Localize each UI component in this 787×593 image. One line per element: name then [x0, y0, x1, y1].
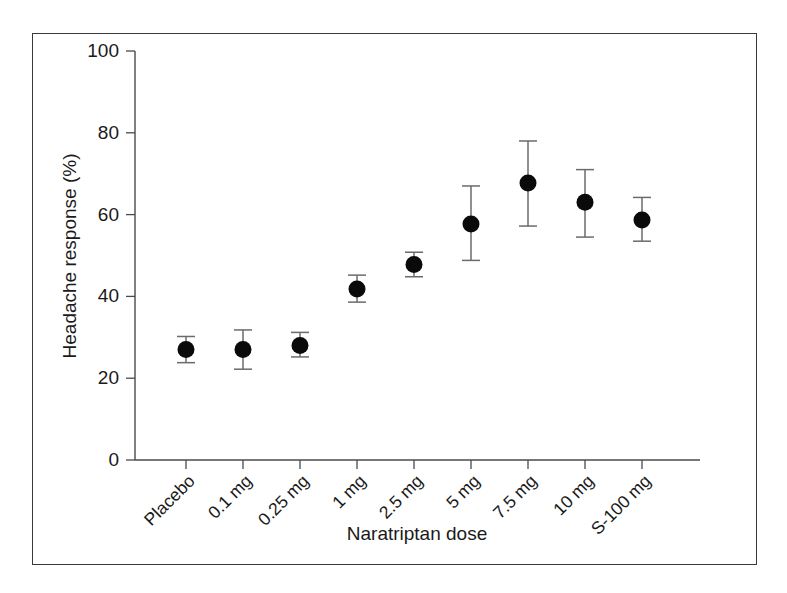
x-axis-ticks — [186, 460, 642, 469]
marker-dot — [463, 216, 480, 233]
x-tick-label-5: 5 mg — [442, 471, 484, 513]
y-tick-label-80: 80 — [98, 122, 119, 143]
y-axis-ticks — [126, 51, 135, 460]
marker-dot — [520, 175, 537, 192]
marker-dot — [178, 341, 195, 358]
data-point-series — [177, 141, 651, 369]
chart-plot-area: 020406080100 Placebo0.1 mg0.25 mg1 mg2.5… — [0, 0, 787, 593]
marker-dot — [235, 341, 252, 358]
y-tick-label-0: 0 — [108, 449, 119, 470]
x-tick-label-8: S-100 mg — [587, 471, 655, 539]
x-tick-label-2: 0.25 mg — [254, 471, 313, 530]
x-tick-label-3: 1 mg — [328, 471, 370, 513]
marker-dot — [349, 281, 366, 298]
x-tick-label-1: 0.1 mg — [204, 471, 256, 523]
marker-dot — [577, 194, 594, 211]
data-point-3 — [348, 275, 366, 302]
x-axis-title: Naratriptan dose — [347, 523, 487, 544]
x-tick-label-4: 2.5 mg — [375, 471, 427, 523]
x-tick-label-0: Placebo — [140, 471, 199, 530]
x-tick-label-7: 10 mg — [549, 471, 598, 520]
marker-dot — [406, 256, 423, 273]
data-point-1 — [234, 330, 252, 369]
y-tick-label-100: 100 — [87, 40, 119, 61]
data-point-6 — [519, 141, 537, 226]
y-tick-label-20: 20 — [98, 367, 119, 388]
figure-root: 020406080100 Placebo0.1 mg0.25 mg1 mg2.5… — [0, 0, 787, 593]
x-tick-label-6: 7.5 mg — [489, 471, 541, 523]
marker-dot — [292, 337, 309, 354]
marker-dot — [634, 211, 651, 228]
y-axis-title: Headache response (%) — [59, 154, 80, 359]
data-point-0 — [177, 336, 195, 362]
y-tick-label-60: 60 — [98, 204, 119, 225]
data-point-8 — [633, 197, 651, 241]
data-point-2 — [291, 332, 309, 357]
y-tick-label-40: 40 — [98, 285, 119, 306]
y-axis-tick-labels: 020406080100 — [87, 40, 119, 470]
data-point-4 — [405, 252, 423, 277]
data-point-5 — [462, 186, 480, 260]
data-point-7 — [576, 170, 594, 237]
